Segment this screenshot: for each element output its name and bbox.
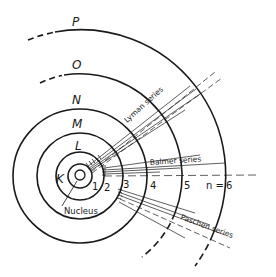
paschen-series-label: Paschen series [179,212,234,239]
shell-o-orbit-dash-end [142,213,175,257]
shell-k-orbit [68,164,92,188]
bohr-atom-diagram: P O N M L K 1 2 3 4 5 n = 6 Nucleus Lyma… [0,0,276,277]
n-label-4: 4 [150,180,156,191]
n-label-1: 1 [92,181,98,192]
lyman-series-label: Lyman series [122,85,165,125]
shell-label-l: L [75,139,82,153]
shell-label-n: N [72,93,81,107]
shell-label-m: M [72,117,83,131]
shell-label-o: O [72,58,81,72]
nucleus-label: Nucleus [64,206,98,216]
nucleus [75,170,85,180]
shell-p-orbit-dash-start [28,33,53,41]
n-prefix-label: n = [206,180,224,191]
paschen-series-lines [119,190,230,248]
shell-label-k: K [56,172,65,186]
n-label-3: 3 [123,179,129,190]
n-label-6: 6 [226,180,232,191]
n-label-2: 2 [104,182,110,193]
shell-o-orbit-dash-start [40,76,62,84]
n-label-5: 5 [184,180,190,191]
shell-label-p: P [72,15,80,29]
shell-p-orbit-dash-end [195,234,213,266]
